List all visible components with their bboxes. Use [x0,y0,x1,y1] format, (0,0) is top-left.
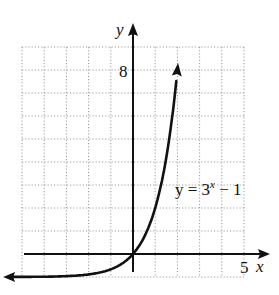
x-axis-label: x [255,257,264,276]
function-label-tail: − 1 [215,180,242,199]
exponential-graph: y 8 5 x y = 3x − 1 [0,0,279,295]
function-label-base: y = 3 [175,180,210,199]
axes [24,23,270,272]
y-axis-label: y [114,20,124,39]
curve-y-equals-3-pow-x-minus-1 [9,81,177,277]
y-tick-label-8: 8 [119,62,128,81]
function-label: y = 3x − 1 [175,178,242,199]
x-tick-label-5: 5 [240,258,249,277]
